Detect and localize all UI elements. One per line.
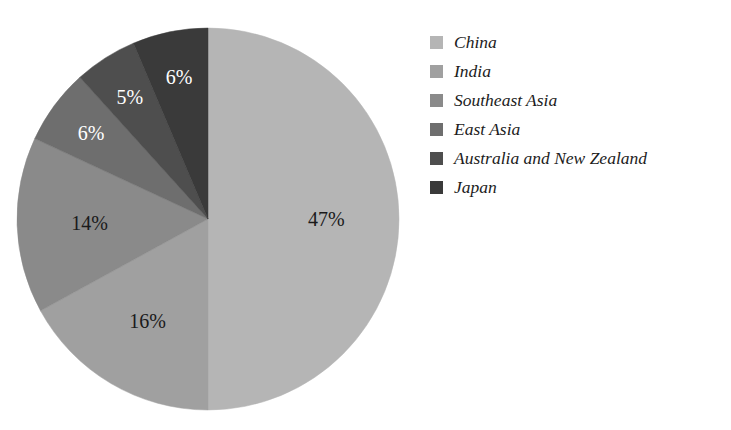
legend-label-east-asia: East Asia <box>454 121 520 139</box>
legend-item-australia-and-new-zealand[interactable]: Australia and New Zealand <box>430 144 725 173</box>
pie-slice-label-east-asia: 6% <box>78 122 105 144</box>
legend-swatch-east-asia <box>430 123 443 136</box>
legend-swatch-australia-and-new-zealand <box>430 152 443 165</box>
pie-slice-label-japan: 6% <box>166 66 193 88</box>
legend-label-china: China <box>454 34 497 52</box>
legend-swatch-china <box>430 36 443 49</box>
pie-slice-label-china: 47% <box>308 208 345 230</box>
legend-swatch-southeast-asia <box>430 94 443 107</box>
legend-item-east-asia[interactable]: East Asia <box>430 115 725 144</box>
pie-slice-china[interactable] <box>208 28 399 410</box>
pie-svg: 47%16%14%6%5%6% <box>0 0 420 430</box>
pie-plot-area: 47%16%14%6%5%6% <box>0 0 420 430</box>
legend-swatch-india <box>430 65 443 78</box>
legend: ChinaIndiaSoutheast AsiaEast AsiaAustral… <box>430 28 725 202</box>
legend-item-southeast-asia[interactable]: Southeast Asia <box>430 86 725 115</box>
legend-label-japan: Japan <box>454 179 497 197</box>
legend-label-australia-and-new-zealand: Australia and New Zealand <box>454 150 647 168</box>
pie-chart-figure: 47%16%14%6%5%6% ChinaIndiaSoutheast Asia… <box>0 0 731 430</box>
legend-label-southeast-asia: Southeast Asia <box>454 92 557 110</box>
legend-item-china[interactable]: China <box>430 28 725 57</box>
legend-item-india[interactable]: India <box>430 57 725 86</box>
pie-slice-label-southeast-asia: 14% <box>71 212 108 234</box>
pie-slice-label-australia-and-new-zealand: 5% <box>117 86 144 108</box>
legend-label-india: India <box>454 63 491 81</box>
legend-item-japan[interactable]: Japan <box>430 173 725 202</box>
pie-slice-label-india: 16% <box>129 310 166 332</box>
legend-swatch-japan <box>430 181 443 194</box>
